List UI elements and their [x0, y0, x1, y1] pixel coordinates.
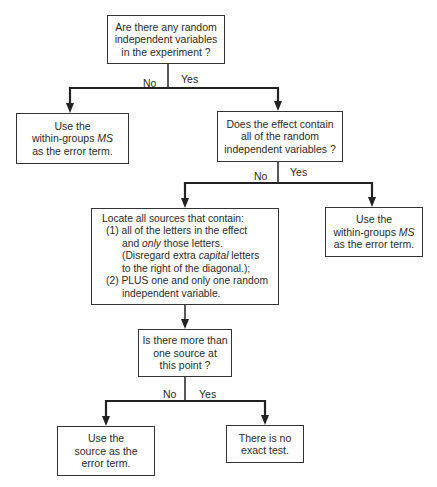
- step-text: (Disregard extra: [122, 250, 199, 261]
- a2-line: Use the: [356, 213, 392, 226]
- branch1-yes-label: Yes: [181, 73, 198, 85]
- answer-within-groups-box-1: Use the within-groups MS as the error te…: [16, 113, 129, 164]
- branch3-yes-label: Yes: [199, 388, 216, 400]
- step-text: and: [122, 238, 142, 249]
- only-italic: only: [142, 238, 161, 249]
- q3-line: Is there more than: [142, 334, 227, 347]
- a3-line: Use the: [88, 432, 124, 445]
- a4-line: exact test.: [241, 444, 289, 457]
- a1-line: as the error term.: [32, 145, 113, 158]
- step-line: to the right of the diagonal.);: [102, 263, 250, 276]
- step-line: independent variable.: [102, 288, 220, 301]
- a2-line: within-groups MS: [333, 226, 414, 239]
- a2-text: within-groups: [333, 226, 398, 238]
- a2-line: as the error term.: [334, 238, 415, 251]
- a3-line: error term.: [81, 457, 130, 470]
- q2-line: all of the random: [241, 130, 319, 143]
- question-random-ivs-box: Are there any random independent variabl…: [107, 15, 225, 64]
- ms-italic: MS: [399, 226, 415, 238]
- question-more-than-one-box: Is there more than one source at this po…: [138, 329, 232, 377]
- answer-within-groups-box-2: Use the within-groups MS as the error te…: [325, 207, 423, 257]
- question-effect-contains-box: Does the effect contain all of the rando…: [217, 111, 343, 162]
- a3-line: source as the: [74, 445, 137, 458]
- branch3-no-label: No: [163, 388, 176, 400]
- q1-line: in the experiment ?: [121, 46, 210, 59]
- step-line: and only those letters.: [102, 238, 223, 251]
- answer-no-exact-test-box: There is no exact test.: [226, 425, 304, 463]
- branch2-no-label: No: [254, 170, 267, 182]
- a1-line: within-groups MS: [32, 132, 113, 145]
- q2-line: independent variables ?: [224, 143, 336, 156]
- step-line: Locate all sources that contain:: [102, 213, 244, 226]
- branch1-no-label: No: [143, 77, 156, 89]
- step-line: (Disregard extra capital letters: [102, 250, 259, 263]
- step-line: (2) PLUS one and only one random: [102, 275, 268, 288]
- a1-text: within-groups: [32, 132, 97, 144]
- locate-sources-box: Locate all sources that contain: (1) all…: [91, 208, 279, 305]
- q3-line: this point ?: [160, 359, 211, 372]
- ms-italic: MS: [97, 132, 113, 144]
- step-text: letters: [228, 250, 259, 261]
- a4-line: There is no: [239, 432, 292, 445]
- q3-line: one source at: [153, 347, 217, 360]
- step-text: those letters.: [161, 238, 223, 249]
- a1-line: Use the: [54, 120, 90, 133]
- q1-line: independent variables: [115, 33, 218, 46]
- step-line: (1) all of the letters in the effect: [102, 225, 247, 238]
- branch2-yes-label: Yes: [290, 166, 307, 178]
- answer-use-source-box: Use the source as the error term.: [57, 426, 155, 476]
- capital-italic: capital: [199, 250, 229, 261]
- q2-line: Does the effect contain: [226, 118, 333, 131]
- q1-line: Are there any random: [115, 21, 217, 34]
